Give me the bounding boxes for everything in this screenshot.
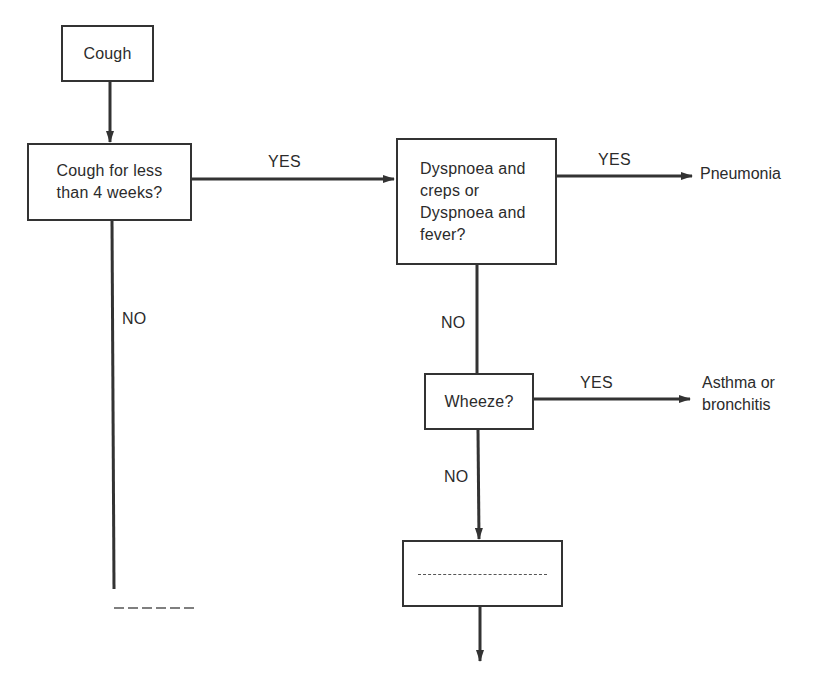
node-dyspnoea-label: Dyspnoea and creps or Dyspnoea and fever… [420, 158, 526, 246]
cough-flowchart: Cough Cough for less than 4 weeks? Dyspn… [0, 0, 818, 676]
node-cough: Cough [61, 25, 154, 82]
edge-label-dyspnoea-yes: YES [598, 150, 631, 170]
edge-label-duration-no: NO [122, 309, 147, 329]
edge-label-duration-yes: YES [268, 152, 301, 172]
node-cough-duration-label: Cough for less than 4 weeks? [57, 160, 163, 204]
outcome-asthma-bronchitis: Asthma or bronchitis [702, 372, 775, 416]
node-cough-label: Cough [83, 43, 131, 65]
line-duration-no [112, 220, 114, 589]
node-wheeze-question: Wheeze? [424, 373, 534, 430]
node-wheeze-label: Wheeze? [445, 391, 514, 413]
node-next-step-placeholder [402, 540, 563, 607]
edge-label-wheeze-no: NO [444, 467, 469, 487]
node-dyspnoea-question: Dyspnoea and creps or Dyspnoea and fever… [396, 138, 557, 265]
arrow-wheeze-no [478, 430, 479, 539]
node-cough-duration-question: Cough for less than 4 weeks? [27, 143, 192, 221]
edge-label-dyspnoea-no: NO [441, 313, 466, 333]
edge-label-wheeze-yes: YES [580, 373, 613, 393]
outcome-pneumonia: Pneumonia [700, 163, 781, 185]
placeholder-dashed-line [418, 574, 547, 575]
